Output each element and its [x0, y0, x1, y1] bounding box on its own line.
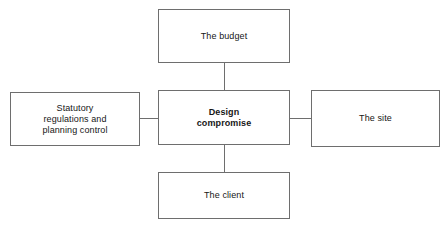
connector-center-to-client [224, 144, 225, 173]
node-design-compromise-label: Design compromise [197, 107, 252, 129]
node-statutory-regulations-label: Statutory regulations and planning contr… [42, 103, 107, 136]
node-statutory-regulations[interactable]: Statutory regulations and planning contr… [10, 92, 140, 146]
node-site[interactable]: The site [311, 90, 440, 147]
node-client[interactable]: The client [158, 172, 290, 219]
node-site-label: The site [359, 113, 392, 124]
node-client-label: The client [204, 190, 244, 201]
node-budget-label: The budget [201, 31, 248, 42]
connector-budget-to-center [224, 62, 225, 91]
connector-statutory-to-center [139, 118, 159, 119]
node-budget[interactable]: The budget [158, 9, 290, 63]
connector-center-to-site [289, 118, 312, 119]
diagram-canvas: The budget Statutory regulations and pla… [0, 0, 447, 229]
node-design-compromise[interactable]: Design compromise [158, 90, 290, 145]
